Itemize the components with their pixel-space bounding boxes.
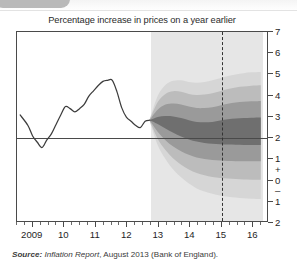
x-axis-tick-label: 2009 <box>21 229 42 240</box>
x-axis-minor-tick <box>118 222 119 225</box>
history-line-series <box>17 32 267 221</box>
y-axis-tick-label: 5 <box>275 68 280 79</box>
chrome-tab-artifact <box>0 0 70 8</box>
x-axis-minor-tick <box>111 222 112 225</box>
x-axis-minor-tick <box>213 222 214 225</box>
x-axis-tick-mark <box>95 222 96 227</box>
fan-chart-figure: Percentage increase in prices on a year … <box>0 11 297 270</box>
y-axis-tick-mark <box>268 222 273 223</box>
x-axis-tick-label: 15 <box>215 229 226 240</box>
x-axis-minor-tick <box>87 222 88 225</box>
y-axis-tick-mark <box>268 137 273 138</box>
y-axis-tick-mark <box>268 201 273 202</box>
x-axis-minor-tick <box>55 222 56 225</box>
x-axis-minor-tick <box>166 222 167 225</box>
x-axis-tick-mark <box>126 222 127 227</box>
x-axis-minor-tick <box>40 222 41 225</box>
x-axis-tick-mark <box>158 222 159 227</box>
y-axis-tick-mark <box>268 95 273 96</box>
y-axis-tick-mark <box>268 158 273 159</box>
x-axis-minor-tick <box>71 222 72 225</box>
x-axis-minor-tick <box>181 222 182 225</box>
source-note: Source: Inflation Report, August 2013 (B… <box>12 250 218 259</box>
y-axis-tick-label: 0 <box>275 174 280 185</box>
y-axis-tick-mark <box>268 31 273 32</box>
x-axis-minor-tick <box>174 222 175 225</box>
x-axis-minor-tick <box>244 222 245 225</box>
y-axis-tick-mark <box>268 52 273 53</box>
source-detail: , August 2013 (Bank of England). <box>99 250 218 259</box>
x-axis-tick-label: 12 <box>121 229 132 240</box>
y-axis-tick-label: 6 <box>275 47 280 58</box>
y-axis-tick-label: 4 <box>275 89 280 100</box>
source-label: Source: <box>12 250 42 259</box>
x-axis-minor-tick <box>48 222 49 225</box>
x-axis-minor-tick <box>134 222 135 225</box>
x-axis-tick-mark <box>63 222 64 227</box>
x-axis-minor-tick <box>103 222 104 225</box>
window-chrome-strip <box>0 0 297 11</box>
x-axis-tick-mark <box>221 222 222 227</box>
source-publication: Inflation Report <box>44 250 99 259</box>
y-axis-tick-label: 2 <box>275 217 280 228</box>
x-axis-minor-tick <box>79 222 80 225</box>
x-axis-minor-tick <box>237 222 238 225</box>
x-axis-minor-tick <box>24 222 25 225</box>
y-axis-tick-mark <box>268 180 273 181</box>
y-axis-plus-sign: + <box>275 163 281 174</box>
y-axis-tick-mark <box>268 116 273 117</box>
x-axis-minor-tick <box>197 222 198 225</box>
forecast-horizon-marker <box>222 32 223 221</box>
x-axis-minor-tick <box>229 222 230 225</box>
x-axis-tick-label: 16 <box>247 229 258 240</box>
x-axis-tick-label: 11 <box>90 229 100 240</box>
x-axis-minor-tick <box>150 222 151 225</box>
x-axis-tick-mark <box>189 222 190 227</box>
y-axis-tick-label: 1 <box>275 153 280 164</box>
x-axis-tick-mark <box>32 222 33 227</box>
x-axis-minor-tick <box>205 222 206 225</box>
plot-area <box>16 31 268 222</box>
x-axis-minor-tick <box>16 222 17 225</box>
x-axis-tick-mark <box>252 222 253 227</box>
cpi-history-line <box>20 79 150 147</box>
x-axis-minor-tick <box>260 222 261 225</box>
y-axis-tick-label: 2 <box>275 132 280 143</box>
y-axis-minus-sign: – <box>275 185 280 196</box>
x-axis-tick-label: 10 <box>58 229 69 240</box>
y-axis-tick-label: 1 <box>275 195 280 206</box>
y-axis-tick-label: 3 <box>275 110 280 121</box>
y-axis-tick-label: 7 <box>275 26 280 37</box>
y-axis-tick-mark <box>268 73 273 74</box>
x-axis-minor-tick <box>142 222 143 225</box>
x-axis-tick-label: 14 <box>184 229 195 240</box>
x-axis-tick-label: 13 <box>152 229 163 240</box>
chart-title: Percentage increase in prices on a year … <box>16 15 268 25</box>
